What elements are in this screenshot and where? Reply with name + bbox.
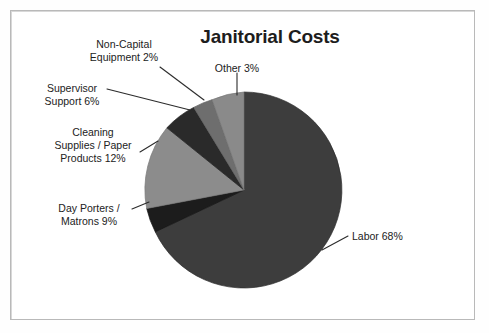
slice-label-day-porters-line2: Matrons 9% [47, 215, 131, 228]
slice-label-cleaning-line3: Products 12% [47, 152, 139, 165]
slice-label-supervisor-support-line2: Support 6% [36, 95, 108, 108]
chart-title: Janitorial Costs [170, 26, 370, 48]
slice-label-labor: Labor 68% [352, 230, 432, 243]
slice-label-cleaning-line2: Supplies / Paper [47, 139, 139, 152]
slice-label-non-capital-equipment-line1: Non-Capital [78, 38, 170, 51]
slice-label-other: Other 3% [204, 62, 270, 75]
slice-label-supervisor-support: Supervisor Support 6% [36, 82, 108, 108]
leader-line-supervisor-support [107, 89, 190, 110]
chart-canvas: Janitorial Costs Non-Capital Equipment 2… [0, 0, 489, 333]
pie-slices [145, 92, 342, 288]
slice-label-non-capital-equipment-line2: Equipment 2% [78, 51, 170, 64]
slice-label-cleaning-supplies-paper-products: Cleaning Supplies / Paper Products 12% [47, 126, 139, 165]
slice-label-supervisor-support-line1: Supervisor [36, 82, 108, 95]
slice-label-non-capital-equipment: Non-Capital Equipment 2% [78, 38, 170, 64]
slice-label-day-porters-line1: Day Porters / [47, 202, 131, 215]
slice-label-day-porters-matrons: Day Porters / Matrons 9% [47, 202, 131, 228]
leader-line-non-capital-equipment [160, 67, 204, 100]
slice-label-cleaning-line1: Cleaning [47, 126, 139, 139]
pie-chart-plot [0, 0, 489, 333]
